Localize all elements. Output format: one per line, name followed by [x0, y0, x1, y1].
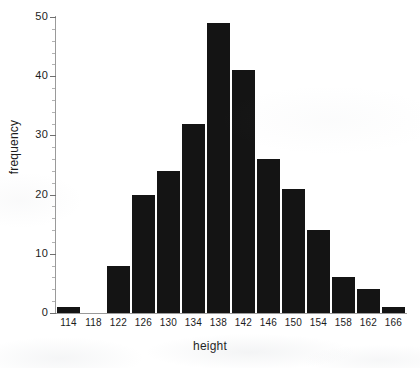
histogram-bar	[182, 124, 205, 313]
y-axis-minor-tick	[52, 159, 55, 160]
histogram-bar	[232, 70, 255, 313]
y-axis-tick-label: 20	[22, 188, 48, 200]
histogram-bar	[307, 230, 330, 313]
y-axis-minor-tick	[52, 124, 55, 125]
y-axis-tick-label: 10	[22, 247, 48, 259]
x-axis-title: height	[0, 339, 420, 353]
histogram-chart: 01020304050 1141181221261301341381421461…	[0, 0, 420, 368]
y-axis-minor-tick	[52, 88, 55, 89]
y-axis-minor-tick	[52, 301, 55, 302]
x-axis-line	[55, 313, 407, 314]
y-axis-tick-label: 0	[22, 306, 48, 318]
y-axis-tick-label: 30	[22, 128, 48, 140]
y-axis-minor-tick	[52, 230, 55, 231]
y-axis-minor-tick	[52, 242, 55, 243]
histogram-bar	[357, 289, 380, 313]
y-axis-minor-tick	[52, 171, 55, 172]
histogram-bar	[257, 159, 280, 313]
y-axis-tick-label: 50	[22, 10, 48, 22]
y-axis-title: frequency	[7, 87, 21, 207]
histogram-bar	[282, 189, 305, 313]
y-axis-minor-tick	[52, 112, 55, 113]
x-axis-tick-label: 166	[378, 317, 410, 328]
y-axis-minor-tick	[52, 64, 55, 65]
histogram-bar	[132, 195, 155, 313]
y-axis-minor-tick	[52, 53, 55, 54]
histogram-bar	[207, 23, 230, 313]
y-axis-minor-tick	[52, 277, 55, 278]
y-axis-minor-tick	[52, 183, 55, 184]
histogram-bar	[107, 266, 130, 313]
y-axis-minor-tick	[52, 29, 55, 30]
histogram-bar	[57, 307, 80, 313]
y-axis-minor-tick	[52, 147, 55, 148]
y-axis-tick-label: 40	[22, 69, 48, 81]
histogram-bar	[157, 171, 180, 313]
y-axis-minor-tick	[52, 218, 55, 219]
histogram-bar	[382, 307, 405, 313]
plot-area	[56, 17, 406, 313]
histogram-bar	[332, 277, 355, 313]
y-axis-minor-tick	[52, 100, 55, 101]
y-axis-minor-tick	[52, 41, 55, 42]
y-axis-minor-tick	[52, 289, 55, 290]
y-axis-major-tick	[50, 313, 56, 314]
y-axis-minor-tick	[52, 206, 55, 207]
y-axis-minor-tick	[52, 266, 55, 267]
